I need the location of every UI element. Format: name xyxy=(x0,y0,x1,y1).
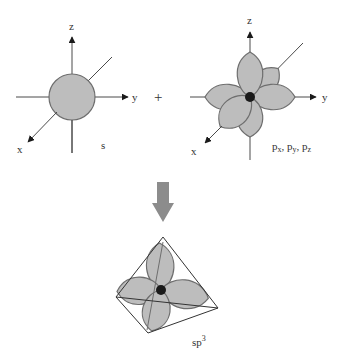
sp3-caption: sp3 xyxy=(192,334,206,348)
orbital-hybridization-diagram: z y x s + z y x px, py, pz xyxy=(0,0,342,358)
p-x-label: x xyxy=(191,145,197,157)
s-z-label: z xyxy=(69,20,74,32)
p-x-axis xyxy=(205,126,222,143)
p-nucleus xyxy=(245,92,255,102)
s-caption: s xyxy=(101,139,105,151)
s-x-axis xyxy=(28,112,57,142)
plus-sign: + xyxy=(154,89,162,105)
down-arrow xyxy=(152,182,174,222)
p-caption: px, py, pz xyxy=(272,140,312,154)
sp3-nucleus xyxy=(156,285,166,295)
s-x-label: x xyxy=(17,143,23,155)
s-orbital-panel: z y x s xyxy=(16,20,138,155)
p-z-label: z xyxy=(247,14,252,26)
p-y-label: y xyxy=(322,91,328,103)
sp3-panel: sp3 xyxy=(116,237,218,348)
p-orbitals-panel: z y x px, py, pz xyxy=(190,14,328,160)
s-y-label: y xyxy=(132,91,138,103)
